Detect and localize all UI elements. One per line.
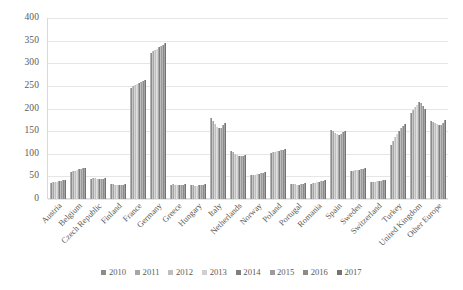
legend-label: 2015 bbox=[277, 268, 294, 277]
bar bbox=[164, 43, 166, 199]
legend-item[interactable]: 2015 bbox=[270, 268, 295, 277]
bar-group bbox=[68, 18, 88, 199]
y-axis-tick-label: 250 bbox=[24, 81, 39, 91]
bar bbox=[244, 155, 246, 199]
legend-label: 2013 bbox=[210, 268, 227, 277]
x-axis-tick: Romania bbox=[308, 200, 328, 262]
x-axis-tick: Hungary bbox=[188, 200, 208, 262]
bar bbox=[384, 180, 386, 199]
bar bbox=[64, 180, 66, 199]
bar bbox=[184, 184, 186, 199]
legend-swatch-icon bbox=[101, 270, 106, 275]
y-axis-tick-label: 100 bbox=[24, 149, 39, 159]
chart-legend: 20102011201220132014201520162017 bbox=[0, 268, 463, 277]
bar-group bbox=[228, 18, 248, 199]
legend-label: 2014 bbox=[243, 268, 260, 277]
bar-group bbox=[88, 18, 108, 199]
bar-group bbox=[348, 18, 368, 199]
bar-group bbox=[248, 18, 268, 199]
bar bbox=[104, 178, 106, 199]
bar-group bbox=[428, 18, 448, 199]
y-axis-tick-label: 400 bbox=[24, 13, 39, 23]
bar bbox=[84, 168, 86, 199]
bar bbox=[204, 184, 206, 199]
bar bbox=[224, 123, 226, 199]
bar bbox=[304, 183, 306, 199]
bar-group bbox=[128, 18, 148, 199]
y-axis-tick-label: 350 bbox=[24, 36, 39, 46]
bar bbox=[344, 131, 346, 199]
x-axis-tick: Austria bbox=[48, 200, 68, 262]
legend-item[interactable]: 2012 bbox=[168, 268, 193, 277]
x-axis-tick: Finland bbox=[108, 200, 128, 262]
legend-swatch-icon bbox=[202, 270, 207, 275]
legend-item[interactable]: 2017 bbox=[337, 268, 362, 277]
bar-group bbox=[328, 18, 348, 199]
bar bbox=[424, 109, 426, 199]
legend-swatch-icon bbox=[337, 270, 342, 275]
legend-label: 2012 bbox=[176, 268, 193, 277]
legend-swatch-icon bbox=[270, 270, 275, 275]
bar bbox=[264, 172, 266, 199]
x-axis-tick: Greece bbox=[168, 200, 188, 262]
y-axis-tick-label: 200 bbox=[24, 104, 39, 114]
bar-group bbox=[108, 18, 128, 199]
legend-label: 2016 bbox=[311, 268, 328, 277]
y-axis-tick-label: 150 bbox=[24, 126, 39, 136]
bar-group bbox=[208, 18, 228, 199]
legend-swatch-icon bbox=[236, 270, 241, 275]
x-axis-tick: Netherlands bbox=[228, 200, 248, 262]
bar-group bbox=[388, 18, 408, 199]
bar-group bbox=[268, 18, 288, 199]
legend-label: 2011 bbox=[143, 268, 160, 277]
x-axis-tick: Germany bbox=[148, 200, 168, 262]
bar bbox=[404, 124, 406, 199]
legend-item[interactable]: 2013 bbox=[202, 268, 227, 277]
bar-group bbox=[188, 18, 208, 199]
bar-group bbox=[168, 18, 188, 199]
bar-group bbox=[308, 18, 328, 199]
bar-group bbox=[48, 18, 68, 199]
x-axis-tick: France bbox=[128, 200, 148, 262]
x-axis-tick: Portugal bbox=[288, 200, 308, 262]
y-axis-tick-label: 300 bbox=[24, 59, 39, 69]
bar-groups bbox=[48, 18, 448, 199]
bar bbox=[364, 168, 366, 199]
legend-label: 2010 bbox=[109, 268, 126, 277]
x-axis-tick: Poland bbox=[268, 200, 288, 262]
bar bbox=[284, 149, 286, 199]
x-axis-tick: Switzerland bbox=[368, 200, 388, 262]
bar-chart: 050100150200250300350400 AustriaBelgiumC… bbox=[0, 0, 463, 290]
y-axis: 050100150200250300350400 bbox=[0, 18, 44, 199]
bar bbox=[124, 184, 126, 199]
x-axis: AustriaBelgiumCzech RepublicFinlandFranc… bbox=[48, 200, 448, 262]
bar bbox=[444, 120, 446, 199]
x-axis-tick: Norway bbox=[248, 200, 268, 262]
bar bbox=[324, 180, 326, 199]
legend-item[interactable]: 2010 bbox=[101, 268, 126, 277]
y-axis-tick-label: 0 bbox=[34, 194, 39, 204]
x-axis-tick: Other Europe bbox=[428, 200, 448, 262]
legend-swatch-icon bbox=[303, 270, 308, 275]
legend-label: 2017 bbox=[344, 268, 361, 277]
x-axis-tick: Czech Republic bbox=[88, 200, 108, 262]
legend-item[interactable]: 2011 bbox=[135, 268, 159, 277]
x-axis-tick: Spain bbox=[328, 200, 348, 262]
legend-swatch-icon bbox=[135, 270, 140, 275]
bar-group bbox=[288, 18, 308, 199]
legend-item[interactable]: 2014 bbox=[236, 268, 261, 277]
y-axis-tick-label: 50 bbox=[29, 172, 39, 182]
bar bbox=[144, 80, 146, 199]
bar-group bbox=[408, 18, 428, 199]
bar-group bbox=[148, 18, 168, 199]
legend-item[interactable]: 2016 bbox=[303, 268, 328, 277]
bar-group bbox=[368, 18, 388, 199]
legend-swatch-icon bbox=[168, 270, 173, 275]
